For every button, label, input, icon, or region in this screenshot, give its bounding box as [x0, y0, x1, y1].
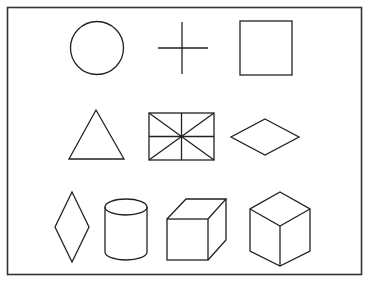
circle-shape — [71, 22, 124, 75]
shapes-figure — [0, 0, 369, 282]
horizontal-rhombus-shape — [231, 119, 299, 155]
square-shape — [240, 21, 292, 75]
rectangle-with-diagonals-shape — [149, 113, 214, 160]
cylinder-shape — [105, 199, 147, 260]
isometric-cube-shape — [250, 192, 310, 266]
plus-cross-shape — [158, 22, 208, 74]
vertical-rhombus-shape — [55, 192, 89, 262]
oblique-cube-shape — [167, 199, 226, 260]
triangle-shape — [69, 110, 124, 159]
